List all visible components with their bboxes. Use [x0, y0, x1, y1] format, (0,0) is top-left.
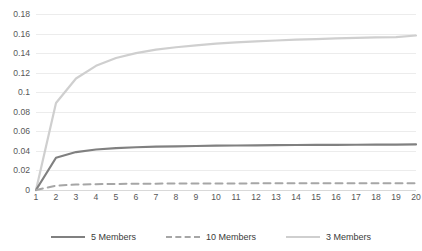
legend-swatch-icon [51, 236, 85, 238]
x-tick-label: 16 [331, 193, 341, 202]
legend-label: 5 Members [91, 233, 136, 242]
chart-legend: 5 Members10 Members3 Members [0, 228, 422, 246]
x-tick-label: 6 [134, 193, 139, 202]
x-tick-label: 8 [174, 193, 179, 202]
y-tick-label: 0 [0, 186, 30, 195]
y-tick-label: 0.14 [0, 49, 30, 58]
x-tick-label: 20 [411, 193, 421, 202]
x-tick-label: 7 [154, 193, 159, 202]
y-tick-label: 0.1 [0, 88, 30, 97]
y-tick-label: 0.06 [0, 127, 30, 136]
y-tick-label: 0.02 [0, 166, 30, 175]
x-tick-label: 11 [232, 193, 241, 202]
x-tick-label: 14 [291, 193, 301, 202]
x-tick-label: 18 [371, 193, 381, 202]
legend-item[interactable]: 5 Members [51, 233, 136, 242]
x-tick-label: 4 [94, 193, 99, 202]
plot-area: 00.020.040.060.080.10.120.140.160.18 [36, 14, 416, 190]
x-axis: 1234567891011121314151617181920 [36, 193, 416, 209]
x-tick-label: 17 [351, 193, 361, 202]
series-line [36, 183, 416, 190]
y-tick-label: 0.08 [0, 107, 30, 116]
y-tick-label: 0.18 [0, 10, 30, 19]
x-tick-label: 2 [54, 193, 59, 202]
x-tick-label: 5 [114, 193, 119, 202]
legend-item[interactable]: 3 Members [286, 233, 371, 242]
series-line [36, 36, 416, 190]
y-tick-label: 0.16 [0, 29, 30, 38]
x-tick-label: 10 [211, 193, 221, 202]
legend-label: 3 Members [326, 233, 371, 242]
legend-swatch-icon [166, 236, 200, 238]
x-tick-label: 3 [74, 193, 79, 202]
y-tick-label: 0.12 [0, 68, 30, 77]
x-tick-label: 19 [391, 193, 401, 202]
x-tick-label: 12 [251, 193, 261, 202]
x-tick-label: 1 [34, 193, 39, 202]
legend-label: 10 Members [206, 233, 256, 242]
legend-swatch-icon [286, 236, 320, 238]
legend-item[interactable]: 10 Members [166, 233, 256, 242]
x-tick-label: 9 [194, 193, 199, 202]
x-tick-label: 15 [311, 193, 321, 202]
series-layer [36, 14, 416, 190]
y-tick-label: 0.04 [0, 147, 30, 156]
gridline-0 [36, 190, 416, 191]
x-tick-label: 13 [271, 193, 281, 202]
line-chart: 00.020.040.060.080.10.120.140.160.18 123… [0, 0, 422, 251]
